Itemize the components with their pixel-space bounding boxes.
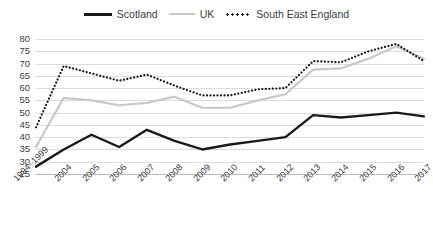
y-axis-tick-label: 55 [19, 96, 30, 106]
plot-area [36, 39, 424, 174]
y-axis-tick-label: 80 [19, 34, 30, 44]
y-axis-tick-label: 45 [19, 120, 30, 130]
line-chart: Scotland UK South East England 807570656… [0, 0, 433, 231]
y-axis-tick-label: 75 [19, 47, 30, 57]
legend-item-south-east-england: South East England [225, 9, 349, 20]
y-axis-tick-label: 35 [19, 145, 30, 155]
line-solid-icon [169, 13, 195, 15]
line-dotted-icon [225, 13, 251, 16]
x-axis-tick-labels: 1994–19992004200520062007200820092010201… [0, 176, 433, 231]
y-axis-tick-label: 40 [19, 132, 30, 142]
y-axis-tick-label: 65 [19, 71, 30, 81]
y-axis-tick-label: 50 [19, 108, 30, 118]
series-line-uk [36, 46, 424, 147]
legend-label-south-east-england: South East England [256, 9, 349, 20]
y-axis-tick-label: 70 [19, 59, 30, 69]
legend-label-scotland: Scotland [117, 9, 158, 20]
legend-item-scotland: Scotland [84, 9, 158, 20]
chart-legend: Scotland UK South East England [0, 4, 433, 24]
legend-label-uk: UK [200, 9, 215, 20]
legend-item-uk: UK [169, 9, 215, 20]
line-solid-icon [84, 13, 112, 16]
y-axis-tick-label: 60 [19, 83, 30, 93]
series-lines [36, 39, 424, 174]
y-axis-tick-labels: 807570656055504540353025 [0, 39, 34, 174]
series-line-scotland [36, 113, 424, 167]
